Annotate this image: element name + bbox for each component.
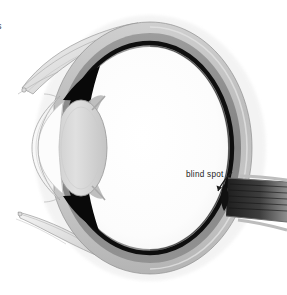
blind-spot-label: blind spot xyxy=(186,170,224,179)
eye-diagram-figure: s blind spot xyxy=(0,0,287,295)
clipped-edge-text: s xyxy=(0,21,2,31)
eye-cross-section-illustration xyxy=(0,0,287,295)
lens xyxy=(55,100,107,196)
